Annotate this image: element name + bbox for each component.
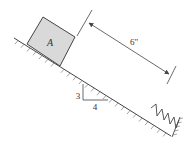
spring-icon [151, 104, 183, 137]
slope-run-label: 4 [93, 102, 98, 112]
incline-surface [14, 38, 171, 137]
block-label: A [46, 37, 54, 48]
slope-rise-label: 3 [76, 91, 81, 101]
block-a: A [27, 17, 75, 66]
dimension-label: 6" [130, 37, 139, 47]
dimension-line [89, 23, 169, 74]
incline-diagram: A 6" 3 4 [0, 0, 190, 147]
